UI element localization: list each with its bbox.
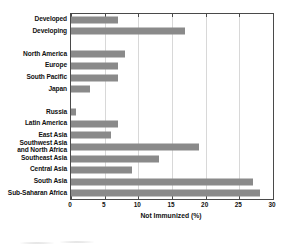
bar-developing bbox=[71, 28, 185, 35]
x-tick-label-5: 5 bbox=[102, 201, 106, 208]
bar-southwest-asia-and-north-africa bbox=[71, 143, 199, 150]
category-label-line: and North Africa bbox=[0, 146, 67, 153]
spacer-row bbox=[71, 37, 273, 49]
x-tick-label-0: 0 bbox=[68, 201, 72, 208]
category-label-southeast-asia: Southeast Asia bbox=[0, 154, 67, 161]
bar-row bbox=[71, 14, 273, 26]
category-label-line: Latin America bbox=[0, 119, 67, 126]
category-label-line: Japan bbox=[0, 85, 67, 92]
bar-developed bbox=[71, 16, 118, 23]
category-label-south-pacific: South Pacific bbox=[0, 73, 67, 80]
category-label-europe: Europe bbox=[0, 61, 67, 68]
bar-southeast-asia bbox=[71, 155, 159, 162]
bar-row bbox=[71, 153, 273, 165]
x-tick-label-15: 15 bbox=[167, 201, 174, 208]
bar-sub-saharan-africa bbox=[71, 190, 260, 197]
category-label-developed: Developed bbox=[0, 15, 67, 22]
category-label-line: Southeast Asia bbox=[0, 154, 67, 161]
category-axis-labels: DevelopedDevelopingNorth AmericaEuropeSo… bbox=[0, 13, 67, 198]
x-axis-tick-labels: 051015202530 bbox=[70, 201, 272, 211]
bar-japan bbox=[71, 86, 90, 93]
bar-row bbox=[71, 141, 273, 153]
plot-area bbox=[70, 13, 274, 200]
bar-row bbox=[71, 107, 273, 119]
category-label-sub-saharan-africa: Sub-Saharan Africa bbox=[0, 189, 67, 196]
bottom-tick-30 bbox=[273, 196, 274, 199]
bar-row bbox=[71, 164, 273, 176]
category-label-line: Central Asia bbox=[0, 165, 67, 172]
bar-row bbox=[71, 60, 273, 72]
x-axis-title: Not Immunized (%) bbox=[70, 212, 272, 219]
bar-row bbox=[71, 118, 273, 130]
bar-latin-america bbox=[71, 120, 118, 127]
category-label-line: Developing bbox=[0, 27, 67, 34]
bar-south-pacific bbox=[71, 74, 118, 81]
category-label-north-america: North America bbox=[0, 50, 67, 57]
category-label-line: Developed bbox=[0, 15, 67, 22]
bar-row bbox=[71, 49, 273, 61]
category-label-line: Europe bbox=[0, 61, 67, 68]
x-tick-label-20: 20 bbox=[201, 201, 208, 208]
bar-europe bbox=[71, 63, 118, 70]
category-label-line: Russia bbox=[0, 108, 67, 115]
category-label-line: North America bbox=[0, 50, 67, 57]
bar-north-america bbox=[71, 51, 125, 58]
scan-artifact bbox=[20, 242, 54, 244]
category-label-line: East Asia bbox=[0, 131, 67, 138]
x-tick-label-10: 10 bbox=[134, 201, 141, 208]
bar-row bbox=[71, 130, 273, 142]
spacer-row bbox=[71, 95, 273, 107]
category-label-latin-america: Latin America bbox=[0, 119, 67, 126]
category-label-developing: Developing bbox=[0, 27, 67, 34]
category-label-east-asia: East Asia bbox=[0, 131, 67, 138]
scan-artifact bbox=[60, 241, 94, 243]
category-label-russia: Russia bbox=[0, 108, 67, 115]
bar-series bbox=[71, 14, 273, 199]
bar-chart: DevelopedDevelopingNorth AmericaEuropeSo… bbox=[0, 0, 291, 248]
x-tick-label-25: 25 bbox=[235, 201, 242, 208]
category-label-line: South Asia bbox=[0, 177, 67, 184]
category-label-line: Sub-Saharan Africa bbox=[0, 189, 67, 196]
bar-east-asia bbox=[71, 132, 111, 139]
x-tick-label-30: 30 bbox=[268, 201, 275, 208]
bar-russia bbox=[71, 109, 76, 116]
top-tick-30 bbox=[273, 14, 274, 17]
bar-row bbox=[71, 83, 273, 95]
bar-row bbox=[71, 72, 273, 84]
bar-south-asia bbox=[71, 178, 253, 185]
category-label-line: South Pacific bbox=[0, 73, 67, 80]
bar-row bbox=[71, 187, 273, 199]
category-label-central-asia: Central Asia bbox=[0, 165, 67, 172]
bar-row bbox=[71, 26, 273, 38]
bar-central-asia bbox=[71, 167, 132, 174]
category-label-south-asia: South Asia bbox=[0, 177, 67, 184]
category-label-southwest-asia: Southwest Asiaand North Africa bbox=[0, 139, 67, 153]
category-label-japan: Japan bbox=[0, 85, 67, 92]
category-label-line: Southwest Asia bbox=[0, 139, 67, 146]
bar-row bbox=[71, 176, 273, 188]
